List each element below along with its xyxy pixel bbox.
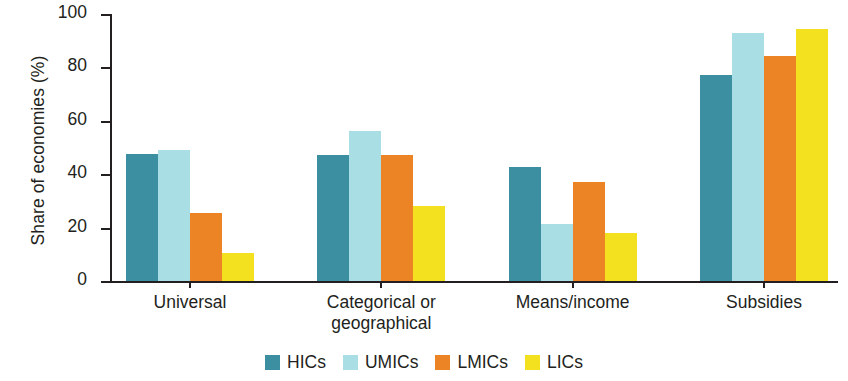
bar-lmics [190, 213, 222, 281]
x-axis-label: Means/income [463, 292, 683, 313]
y-tick-80: 80 [101, 67, 110, 69]
bar-group: Categorical or geographical [317, 14, 445, 281]
x-tick-mark [763, 281, 765, 288]
bar-umics [732, 33, 764, 281]
y-tick-mark [101, 174, 110, 176]
y-tick-40: 40 [101, 174, 110, 176]
legend-item-lics[interactable]: LICs [525, 352, 583, 373]
bar-umics [158, 150, 190, 281]
x-axis-label: Subsidies [654, 292, 848, 313]
bar-lics [605, 233, 637, 281]
bar-hics [509, 167, 541, 281]
bar-group-bars [126, 14, 254, 281]
bar-group-bars [317, 14, 445, 281]
x-axis-line [102, 281, 838, 283]
legend-swatch-icon [435, 355, 450, 370]
bar-hics [317, 155, 349, 281]
bar-groups: UniversalCategorical or geographicalMean… [110, 14, 838, 281]
bar-lmics [381, 155, 413, 281]
y-tick-mark [101, 67, 110, 69]
x-tick-mark [380, 281, 382, 288]
bar-chart: Share of economies (%) 020406080100 Univ… [0, 0, 848, 381]
bar-lmics [573, 182, 605, 281]
x-tick-mark [189, 281, 191, 288]
y-tick-label: 100 [27, 2, 87, 23]
y-tick-mark [101, 228, 110, 230]
plot-area: 020406080100 UniversalCategorical or geo… [110, 14, 838, 281]
y-tick-label: 20 [27, 216, 87, 237]
x-axis-label: Universal [80, 292, 300, 313]
bar-umics [349, 131, 381, 281]
y-tick-mark [101, 281, 110, 283]
y-tick-60: 60 [101, 121, 110, 123]
y-tick-0: 0 [101, 281, 110, 283]
legend-label: UMICs [365, 352, 418, 373]
y-tick-label: 40 [27, 162, 87, 183]
bar-hics [126, 154, 158, 281]
y-tick-label: 60 [27, 109, 87, 130]
chart-legend: HICsUMICsLMICsLICs [0, 352, 848, 373]
bar-group: Universal [126, 14, 254, 281]
y-tick-label: 0 [27, 269, 87, 290]
y-tick-mark [101, 121, 110, 123]
legend-swatch-icon [265, 355, 280, 370]
bar-lics [413, 206, 445, 281]
bar-umics [541, 224, 573, 281]
bar-lics [796, 29, 828, 281]
bar-group: Means/income [509, 14, 637, 281]
y-tick-100: 100 [101, 14, 110, 16]
bar-lmics [764, 56, 796, 281]
y-tick-20: 20 [101, 228, 110, 230]
bar-group: Subsidies [700, 14, 828, 281]
legend-swatch-icon [343, 355, 358, 370]
legend-swatch-icon [525, 355, 540, 370]
bar-group-bars [700, 14, 828, 281]
legend-label: HICs [287, 352, 326, 373]
y-tick-label: 80 [27, 55, 87, 76]
legend-item-umics[interactable]: UMICs [343, 352, 418, 373]
bar-hics [700, 75, 732, 281]
bar-lics [222, 253, 254, 281]
y-tick-mark [101, 14, 110, 16]
legend-label: LMICs [457, 352, 508, 373]
x-tick-mark [572, 281, 574, 288]
x-axis-label: Categorical or geographical [271, 292, 491, 334]
legend-item-lmics[interactable]: LMICs [435, 352, 508, 373]
legend-label: LICs [547, 352, 583, 373]
legend-item-hics[interactable]: HICs [265, 352, 326, 373]
bar-group-bars [509, 14, 637, 281]
